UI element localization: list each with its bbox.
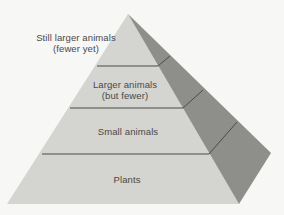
- level-label-small: Small animals: [98, 126, 158, 137]
- level-label-larger: Larger animals (but fewer): [93, 79, 157, 101]
- level-top-line1: Still larger animals: [36, 32, 116, 43]
- level-label-top: Still larger animals (fewer yet): [36, 32, 116, 54]
- level-larger-line2: (but fewer): [93, 90, 157, 101]
- level-larger-line1: Larger animals: [93, 79, 157, 90]
- level-plants-line1: Plants: [113, 174, 140, 185]
- level-small-line1: Small animals: [98, 126, 158, 137]
- level-label-plants: Plants: [113, 174, 140, 185]
- level-top-line2: (fewer yet): [36, 43, 116, 54]
